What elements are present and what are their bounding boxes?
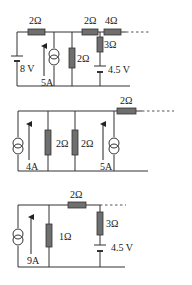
resistor-3ohm — [97, 37, 103, 52]
circuit-diagrams: 8 V 2Ω 5A 2Ω 2Ω 4Ω 3Ω 4.5 V — [0, 0, 192, 285]
circuit-3: 2Ω 9A 1Ω 3Ω 4.5 V — [13, 189, 134, 267]
resistor-2ohm-shunt — [69, 48, 75, 68]
label-r-1ohm: 1Ω — [59, 231, 71, 242]
battery-8v-icon — [11, 56, 23, 61]
current-source-icon — [109, 138, 119, 154]
label-r-3ohm: 3Ω — [104, 39, 116, 50]
label-5a: 5A — [41, 77, 54, 88]
label-r-left: 2Ω — [29, 15, 41, 26]
label-9a: 9A — [27, 255, 40, 266]
resistor-2ohm-shunt-2 — [72, 130, 78, 155]
label-r-shunt-2: 2Ω — [81, 138, 93, 149]
resistor-2ohm-left — [28, 29, 45, 35]
resistor-2ohm-top — [117, 108, 136, 114]
circuit-2: 2Ω 4A 2Ω 2Ω 5A — [13, 95, 174, 172]
resistor-3ohm — [97, 212, 103, 235]
battery-4-5v-icon — [94, 245, 106, 251]
current-source-icon — [13, 229, 23, 245]
current-source-icon — [13, 138, 23, 154]
label-r-4ohm: 4Ω — [105, 15, 117, 26]
label-r-shunt-1: 2Ω — [56, 138, 68, 149]
circuit-1: 8 V 2Ω 5A 2Ω 2Ω 4Ω 3Ω 4.5 V — [11, 15, 151, 88]
resistor-1ohm — [46, 224, 52, 247]
label-4-5v: 4.5 V — [108, 64, 131, 75]
current-source-icon — [49, 49, 59, 65]
resistor-2ohm-mid — [82, 29, 98, 35]
label-4-5v: 4.5 V — [111, 242, 134, 253]
label-r-top: 2Ω — [120, 95, 132, 106]
label-r-3ohm: 3Ω — [106, 218, 118, 229]
label-r-shunt: 2Ω — [77, 53, 89, 64]
label-4a: 4A — [26, 161, 39, 172]
resistor-2ohm-shunt-1 — [45, 130, 51, 155]
resistor-2ohm-top — [68, 202, 86, 208]
battery-4-5v-icon — [94, 66, 106, 72]
label-5a: 5A — [100, 161, 113, 172]
label-r-mid: 2Ω — [84, 15, 96, 26]
label-8v: 8 V — [20, 63, 35, 74]
label-r-top: 2Ω — [70, 189, 82, 200]
resistor-4ohm — [104, 29, 121, 35]
